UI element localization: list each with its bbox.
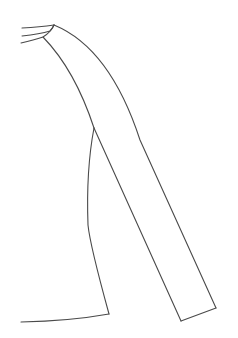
garment-sketch-canvas: [0, 0, 238, 338]
collar-line-top: [22, 25, 54, 28]
sleeve-cuff: [181, 308, 216, 321]
garment-sketch: [0, 0, 238, 338]
raglan-seam: [43, 37, 94, 128]
hem: [21, 314, 109, 322]
side-seam: [88, 128, 109, 314]
sleeve-inner-edge: [94, 128, 181, 321]
sleeve-outer-edge: [54, 25, 216, 308]
